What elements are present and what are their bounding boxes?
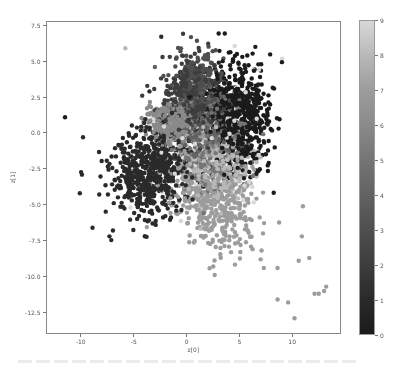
x-tick-mark [133, 334, 134, 337]
y-tick-label: -10.0 [25, 273, 41, 280]
y-axis-label: z[1] [9, 172, 16, 184]
y-tick-label: 7.5 [31, 22, 41, 29]
colorbar-tick-mark [375, 160, 378, 161]
y-tick-mark [43, 25, 46, 26]
y-tick-mark [43, 61, 46, 62]
colorbar-tick-label: 8 [380, 52, 384, 59]
colorbar-tick-mark [375, 20, 378, 21]
y-tick-mark [43, 97, 46, 98]
colorbar-tick-label: 0 [380, 332, 384, 339]
colorbar [359, 20, 375, 335]
scatter-figure: -10-50510 7.55.02.50.0-2.5-5.0-7.5-10.0-… [0, 0, 401, 370]
y-tick-mark [43, 240, 46, 241]
y-tick-mark [43, 276, 46, 277]
x-tick-mark [186, 334, 187, 337]
colorbar-tick-label: 7 [380, 87, 384, 94]
colorbar-tick-mark [375, 125, 378, 126]
cropped-caption [18, 360, 358, 363]
colorbar-tick-mark [375, 90, 378, 91]
y-tick-mark [43, 312, 46, 313]
x-tick-mark [292, 334, 293, 337]
x-tick-label: 0 [185, 338, 189, 345]
colorbar-tick-label: 1 [380, 297, 384, 304]
colorbar-tick-mark [375, 55, 378, 56]
y-tick-label: -7.5 [29, 237, 41, 244]
y-tick-mark [43, 168, 46, 169]
y-tick-label: -5.0 [29, 201, 41, 208]
colorbar-tick-mark [375, 300, 378, 301]
colorbar-tick-mark [375, 335, 378, 336]
y-tick-mark [43, 132, 46, 133]
y-tick-mark [43, 204, 46, 205]
colorbar-tick-label: 9 [380, 17, 384, 24]
y-tick-label: 5.0 [31, 58, 41, 65]
colorbar-tick-label: 4 [380, 192, 384, 199]
x-tick-label: -10 [76, 338, 86, 345]
colorbar-tick-label: 6 [380, 122, 384, 129]
y-tick-label: 0.0 [31, 129, 41, 136]
x-tick-mark [239, 334, 240, 337]
x-tick-mark [80, 334, 81, 337]
colorbar-tick-label: 3 [380, 227, 384, 234]
y-tick-label: 2.5 [31, 94, 41, 101]
x-tick-label: 10 [288, 338, 296, 345]
x-axis-label: z[0] [188, 346, 200, 353]
colorbar-tick-mark [375, 265, 378, 266]
colorbar-tick-mark [375, 195, 378, 196]
colorbar-tick-mark [375, 230, 378, 231]
colorbar-tick-label: 5 [380, 157, 384, 164]
y-tick-label: -12.5 [25, 309, 41, 316]
scatter-plot-canvas [0, 0, 401, 370]
x-tick-label: 5 [237, 338, 241, 345]
y-tick-label: -2.5 [29, 165, 41, 172]
x-tick-label: -5 [131, 338, 137, 345]
colorbar-tick-label: 2 [380, 262, 384, 269]
